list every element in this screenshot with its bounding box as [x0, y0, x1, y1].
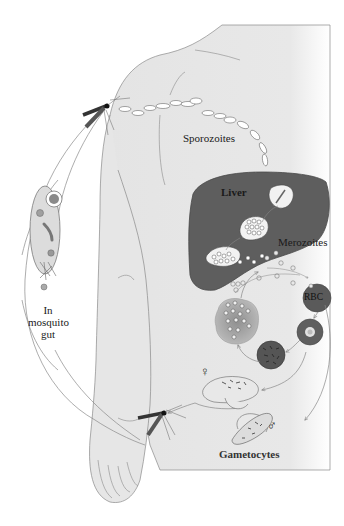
label-sporozoites: Sporozoites [183, 132, 235, 144]
label-male-symbol: ♂ [267, 418, 277, 434]
rbc-ring-stage [297, 319, 323, 345]
label-mosquito-gut: In mosquito gut [28, 304, 68, 340]
label-merozoites: Merozoites [278, 236, 327, 248]
malaria-life-cycle-diagram [0, 0, 344, 526]
label-gut-line2: mosquito [28, 316, 68, 328]
human-torso [0, 25, 344, 526]
mosquito-gut-oval [30, 186, 62, 290]
label-female-symbol: ♀ [200, 364, 210, 380]
label-gut-line1: In [28, 304, 68, 316]
label-rbc: RBC [304, 292, 323, 302]
rbc-schizont [257, 341, 285, 369]
label-gametocytes: Gametocytes [219, 448, 279, 460]
label-liver: Liver [221, 186, 247, 198]
label-gut-line3: gut [28, 328, 68, 340]
ruptured-schizont [215, 298, 258, 344]
